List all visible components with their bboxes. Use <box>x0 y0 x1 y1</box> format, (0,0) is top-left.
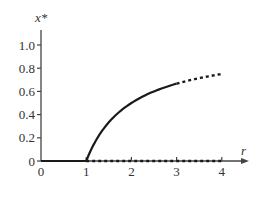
bifurcation-chart: 0123400.20.40.60.81.0 r x* <box>0 0 262 197</box>
y-tick-label: 0.4 <box>19 107 36 122</box>
y-tick-label: 0.2 <box>19 130 35 145</box>
x-tick-label: 1 <box>83 164 90 179</box>
y-tick-label: 0 <box>29 154 36 169</box>
x-tick-label: 4 <box>219 164 226 179</box>
series-line <box>177 74 222 84</box>
x-axis-label: r <box>241 143 247 158</box>
y-tick-label: 0.8 <box>19 61 35 76</box>
y-tick-label: 1.0 <box>19 38 35 53</box>
series-line <box>86 84 176 161</box>
series-layer <box>41 74 222 161</box>
axes: 0123400.20.40.60.81.0 <box>19 30 249 179</box>
y-axis-label: x* <box>34 10 48 25</box>
x-tick-label: 3 <box>173 164 180 179</box>
x-axis-arrow-icon <box>241 158 249 164</box>
y-tick-label: 0.6 <box>19 84 36 99</box>
x-tick-label: 2 <box>128 164 135 179</box>
x-tick-label: 0 <box>38 164 45 179</box>
